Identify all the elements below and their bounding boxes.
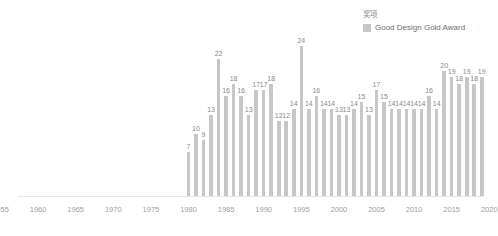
- bar[interactable]: 13: [345, 115, 349, 196]
- bar[interactable]: 14: [397, 109, 401, 197]
- bar[interactable]: 18: [457, 84, 461, 197]
- bar[interactable]: 19: [465, 77, 469, 196]
- bar-value-label: 13: [245, 106, 253, 114]
- bar[interactable]: 14: [322, 109, 326, 197]
- bar[interactable]: 14: [307, 109, 311, 197]
- x-axis-tick-label: 1985: [218, 205, 235, 214]
- bar-rect[interactable]: [307, 109, 311, 197]
- bar-value-label: 16: [312, 87, 320, 95]
- bar-rect[interactable]: [382, 102, 386, 196]
- bar-rect[interactable]: [457, 84, 461, 197]
- bar-rect[interactable]: [360, 102, 364, 196]
- bar-rect[interactable]: [202, 140, 206, 196]
- bar-rect[interactable]: [375, 90, 379, 196]
- bar-rect[interactable]: [284, 121, 288, 196]
- bar[interactable]: 13: [367, 115, 371, 196]
- bar[interactable]: 14: [412, 109, 416, 197]
- legend-swatch-good-design-gold-award: [363, 24, 371, 32]
- bar-rect[interactable]: [262, 90, 266, 196]
- x-axis-tick-label: 1960: [30, 205, 47, 214]
- bar-rect[interactable]: [239, 96, 243, 196]
- bar-rect[interactable]: [217, 59, 221, 197]
- bar-rect[interactable]: [247, 115, 251, 196]
- bar-rect[interactable]: [427, 96, 431, 196]
- bar[interactable]: 19: [480, 77, 484, 196]
- bar-rect[interactable]: [330, 109, 334, 197]
- x-axis-tick-label: 1990: [255, 205, 272, 214]
- bar-rect[interactable]: [322, 109, 326, 197]
- bar-rect[interactable]: [194, 134, 198, 197]
- bar-rect[interactable]: [397, 109, 401, 197]
- legend-entry[interactable]: Good Design Gold Award: [363, 23, 487, 33]
- bar-rect[interactable]: [224, 96, 228, 196]
- bar-rect[interactable]: [292, 109, 296, 197]
- x-axis: 1955196019651970197519801985199019952000…: [0, 196, 489, 236]
- bar[interactable]: 19: [450, 77, 454, 196]
- bar-rect[interactable]: [352, 109, 356, 197]
- bar-value-label: 12: [282, 112, 290, 120]
- bar[interactable]: 18: [269, 84, 273, 197]
- bar-rect[interactable]: [420, 109, 424, 197]
- bar[interactable]: 12: [277, 121, 281, 196]
- bar[interactable]: 13: [247, 115, 251, 196]
- bar[interactable]: 20: [442, 71, 446, 196]
- bar-value-label: 16: [425, 87, 433, 95]
- bar-rect[interactable]: [254, 90, 258, 196]
- bar[interactable]: 17: [375, 90, 379, 196]
- bar-value-label: 10: [192, 125, 200, 133]
- bar-rect[interactable]: [269, 84, 273, 197]
- bar-rect[interactable]: [367, 115, 371, 196]
- bar-rect[interactable]: [209, 115, 213, 196]
- bar-value-label: 14: [418, 100, 426, 108]
- bar-rect[interactable]: [412, 109, 416, 197]
- bar[interactable]: 14: [405, 109, 409, 197]
- bar[interactable]: 14: [352, 109, 356, 197]
- bar[interactable]: 16: [427, 96, 431, 196]
- bar[interactable]: 16: [239, 96, 243, 196]
- bar-rect[interactable]: [337, 115, 341, 196]
- bar-rect[interactable]: [232, 84, 236, 197]
- bar[interactable]: 16: [224, 96, 228, 196]
- bar-rect[interactable]: [390, 109, 394, 197]
- bar[interactable]: 14: [292, 109, 296, 197]
- bar-rect[interactable]: [450, 77, 454, 196]
- bar-rect[interactable]: [187, 152, 191, 196]
- bar[interactable]: 17: [262, 90, 266, 196]
- bar-value-label: 14: [305, 100, 313, 108]
- bar-value-label: 14: [290, 100, 298, 108]
- bar-rect[interactable]: [300, 46, 304, 196]
- bar[interactable]: 14: [330, 109, 334, 197]
- bar[interactable]: 14: [390, 109, 394, 197]
- bar-rect[interactable]: [435, 109, 439, 197]
- legend: 奖项 Good Design Gold Award: [363, 10, 487, 33]
- bar[interactable]: 10: [194, 134, 198, 197]
- bar-rect[interactable]: [277, 121, 281, 196]
- bar[interactable]: 12: [284, 121, 288, 196]
- bar-rect[interactable]: [442, 71, 446, 196]
- bar[interactable]: 13: [209, 115, 213, 196]
- bar[interactable]: 14: [420, 109, 424, 197]
- x-axis-tick-label: 2015: [443, 205, 460, 214]
- bar[interactable]: 13: [337, 115, 341, 196]
- bar-rect[interactable]: [405, 109, 409, 197]
- bar[interactable]: 15: [382, 102, 386, 196]
- bar[interactable]: 9: [202, 140, 206, 196]
- bar-rect[interactable]: [345, 115, 349, 196]
- bar[interactable]: 16: [315, 96, 319, 196]
- bar[interactable]: 17: [254, 90, 258, 196]
- bar[interactable]: 7: [187, 152, 191, 196]
- bar-rect[interactable]: [472, 84, 476, 197]
- bar-value-label: 13: [207, 106, 215, 114]
- bar[interactable]: 15: [360, 102, 364, 196]
- bar[interactable]: 14: [435, 109, 439, 197]
- bar-rect[interactable]: [315, 96, 319, 196]
- bar[interactable]: 18: [472, 84, 476, 197]
- bar[interactable]: 18: [232, 84, 236, 197]
- bar-rect[interactable]: [465, 77, 469, 196]
- x-axis-tick-label: 2005: [368, 205, 385, 214]
- bar[interactable]: 24: [300, 46, 304, 196]
- bar[interactable]: 22: [217, 59, 221, 197]
- bar-value-label: 22: [215, 50, 223, 58]
- bar-rect[interactable]: [480, 77, 484, 196]
